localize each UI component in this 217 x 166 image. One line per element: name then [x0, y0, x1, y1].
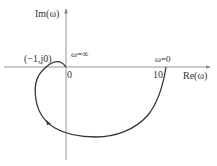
origin-tick-label: 0	[67, 69, 72, 80]
imaginary-axis-label: Im(ω)	[35, 8, 59, 20]
omega-zero-label: ω=0	[155, 54, 171, 64]
nyquist-diagram: Im(ω) Re(ω) 0 10 (−1,j0) ω=∞ ω=0	[0, 0, 217, 166]
real-axis-label: Re(ω)	[183, 70, 207, 82]
ten-tick-label: 10	[153, 69, 163, 80]
nyquist-curve	[35, 62, 166, 137]
omega-infinity-label: ω=∞	[71, 49, 88, 59]
critical-point-label: (−1,j0)	[24, 53, 52, 65]
